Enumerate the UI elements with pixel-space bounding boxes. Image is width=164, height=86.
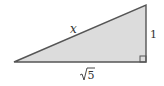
vertical-leg-label: 1 — [150, 28, 157, 41]
triangle — [14, 5, 146, 62]
radicand: 5 — [88, 69, 95, 82]
hypotenuse-label: x — [70, 22, 77, 36]
right-triangle-diagram: x 1 5 — [0, 0, 164, 86]
horizontal-leg-label: 5 — [80, 68, 95, 82]
